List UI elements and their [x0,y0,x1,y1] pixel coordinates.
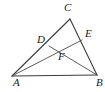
vertex-label-E: E [85,28,92,39]
vertex-label-D: D [37,34,45,45]
segment-side-AB [12,75,97,76]
segment-cevian-AE [12,40,82,76]
vertex-label-F: F [58,51,65,62]
vertex-label-C: C [64,2,71,13]
segment-side-AC [12,19,70,76]
geometry-figure: C D E F A B [0,0,105,92]
vertex-label-B: B [96,77,103,88]
vertex-label-A: A [13,77,20,88]
